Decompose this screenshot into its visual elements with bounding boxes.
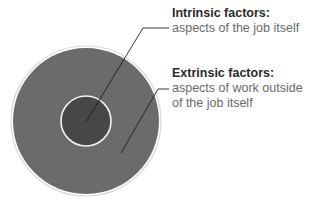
- extrinsic-description: aspects of work outside of the job itsel…: [172, 81, 303, 110]
- intrinsic-title: Intrinsic factors:: [172, 6, 270, 20]
- extrinsic-title: Extrinsic factors:: [172, 66, 274, 80]
- intrinsic-inner-circle: [61, 96, 111, 146]
- intrinsic-description: aspects of the job itself: [172, 21, 299, 35]
- intrinsic-factors-label: Intrinsic factors: aspects of the job it…: [172, 6, 302, 36]
- extrinsic-factors-label: Extrinsic factors: aspects of work outsi…: [172, 66, 310, 111]
